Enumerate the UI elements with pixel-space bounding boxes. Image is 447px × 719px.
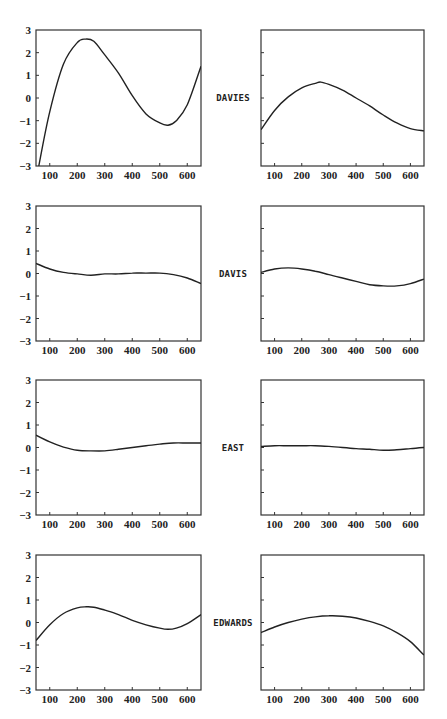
y-tick-label: −1 (19, 464, 31, 476)
y-tick-label: 0 (26, 92, 32, 104)
y-tick-label: −3 (19, 335, 31, 347)
x-tick-label: 300 (321, 169, 338, 181)
x-tick-label: 300 (97, 169, 114, 181)
small-multiples-figure: 100200300400500600−3−2−10123100200300400… (0, 0, 447, 719)
x-tick-label: 300 (321, 693, 338, 705)
x-tick-label: 600 (402, 518, 419, 530)
y-tick-label: −2 (19, 487, 31, 499)
panel-row3-right: 100200300400500600 (261, 380, 424, 530)
plot-frame (36, 555, 201, 690)
y-tick-label: −3 (19, 160, 31, 172)
x-tick-label: 200 (69, 518, 86, 530)
y-tick-label: −1 (19, 115, 31, 127)
x-tick-label: 300 (321, 344, 338, 356)
y-tick-label: 2 (26, 47, 32, 59)
panel-row4-right: 100200300400500600 (261, 555, 424, 705)
y-tick-label: −1 (19, 290, 31, 302)
plot-frame (261, 30, 424, 166)
y-tick-label: 1 (26, 69, 32, 81)
x-tick-label: 300 (97, 344, 114, 356)
series-line (36, 263, 201, 283)
x-tick-label: 500 (152, 518, 169, 530)
row-label-edwards: EDWARDS (213, 618, 252, 628)
row-label-east: EAST (222, 443, 244, 453)
panel-row2-right: 100200300400500600 (261, 206, 424, 356)
series-line (261, 446, 424, 451)
x-tick-label: 500 (375, 518, 392, 530)
y-tick-label: 2 (26, 397, 32, 409)
x-tick-label: 400 (124, 169, 141, 181)
x-tick-label: 600 (179, 169, 196, 181)
x-tick-label: 100 (266, 344, 283, 356)
y-tick-label: 0 (26, 617, 32, 629)
y-tick-label: 1 (26, 419, 32, 431)
x-tick-label: 200 (69, 344, 86, 356)
x-tick-label: 400 (124, 344, 141, 356)
x-tick-label: 100 (266, 693, 283, 705)
x-tick-label: 300 (97, 693, 114, 705)
y-tick-label: −3 (19, 509, 31, 521)
x-tick-label: 500 (152, 693, 169, 705)
panel-row3-left: 100200300400500600−3−2−10123 (19, 374, 201, 530)
x-tick-label: 400 (124, 518, 141, 530)
plot-frame (36, 380, 201, 515)
panel-row2-left: 100200300400500600−3−2−10123 (19, 200, 201, 356)
y-tick-label: 2 (26, 223, 32, 235)
plot-frame (36, 30, 201, 166)
x-tick-label: 600 (402, 169, 419, 181)
x-tick-label: 100 (42, 693, 59, 705)
panel-row1-left: 100200300400500600−3−2−10123 (19, 24, 201, 181)
x-tick-label: 200 (294, 344, 311, 356)
x-tick-label: 100 (42, 344, 59, 356)
x-tick-label: 300 (97, 518, 114, 530)
x-tick-label: 600 (402, 344, 419, 356)
x-tick-label: 500 (152, 344, 169, 356)
y-tick-label: −2 (19, 137, 31, 149)
y-tick-label: 1 (26, 245, 32, 257)
x-tick-label: 100 (266, 518, 283, 530)
x-tick-label: 400 (348, 169, 365, 181)
x-tick-label: 600 (179, 518, 196, 530)
y-tick-label: −3 (19, 684, 31, 696)
x-tick-label: 400 (124, 693, 141, 705)
y-tick-label: 1 (26, 594, 32, 606)
y-tick-label: 3 (26, 549, 32, 561)
y-tick-label: 0 (26, 268, 32, 280)
x-tick-label: 400 (348, 344, 365, 356)
y-tick-label: 0 (26, 442, 32, 454)
x-tick-label: 200 (294, 693, 311, 705)
series-line (261, 268, 424, 286)
panel-row4-left: 100200300400500600−3−2−10123 (19, 549, 201, 705)
plot-frame (261, 555, 424, 690)
y-tick-label: 3 (26, 24, 32, 36)
y-tick-label: 3 (26, 374, 32, 386)
x-tick-label: 200 (294, 518, 311, 530)
x-tick-label: 500 (375, 693, 392, 705)
x-tick-label: 200 (294, 169, 311, 181)
y-tick-label: −1 (19, 639, 31, 651)
row-label-davis: DAVIS (219, 269, 247, 279)
x-tick-label: 200 (69, 693, 86, 705)
y-tick-label: 2 (26, 572, 32, 584)
x-tick-label: 500 (375, 344, 392, 356)
plot-frame (261, 206, 424, 341)
x-tick-label: 200 (69, 169, 86, 181)
x-tick-label: 100 (42, 518, 59, 530)
x-tick-label: 300 (321, 518, 338, 530)
x-tick-label: 600 (179, 344, 196, 356)
y-tick-label: −2 (19, 313, 31, 325)
x-tick-label: 600 (402, 693, 419, 705)
x-tick-label: 400 (348, 518, 365, 530)
x-tick-label: 500 (375, 169, 392, 181)
series-line (261, 82, 424, 131)
series-line (261, 616, 424, 655)
panel-row1-right: 100200300400500600 (261, 30, 424, 181)
x-tick-label: 100 (266, 169, 283, 181)
x-tick-label: 400 (348, 693, 365, 705)
series-line (36, 607, 201, 641)
y-tick-label: 3 (26, 200, 32, 212)
series-line (36, 435, 201, 451)
x-tick-label: 600 (179, 693, 196, 705)
x-tick-label: 500 (152, 169, 169, 181)
y-tick-label: −2 (19, 662, 31, 674)
